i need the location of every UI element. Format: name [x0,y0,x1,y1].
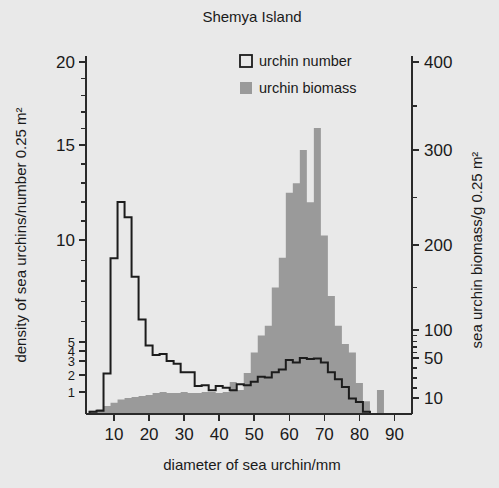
right-tick-label: 50 [424,349,443,368]
right-tick-label: 300 [424,141,452,160]
right-axis-title: sea urchin biomass/g 0.25 m² [468,152,485,349]
right-tick-label: 100 [424,321,452,340]
x-tick-label: 10 [105,425,124,444]
legend-swatch-urchin-biomass-icon [240,82,252,94]
x-tick-label: 40 [210,425,229,444]
x-axis-ticks: 102030405060708090 [105,414,404,444]
left-tick-label: 20 [56,53,75,72]
right-tick-label: 200 [424,236,452,255]
legend-swatch-urchin-number-icon [240,55,252,67]
x-tick-label: 60 [280,425,299,444]
x-tick-label: 30 [175,425,194,444]
left-axis-title: density of sea urchins/number 0.25 m² [12,107,29,362]
chart-title: Shemya Island [202,8,301,25]
left-tick-label: 2 [68,368,75,383]
x-tick-label: 80 [350,425,369,444]
x-tick-label: 90 [385,425,404,444]
urchin-histogram-chart: Shemya Island 102030405060708090 1234510… [0,0,499,488]
left-tick-label: 10 [56,231,75,250]
x-tick-label: 20 [140,425,159,444]
x-tick-label: 50 [245,425,264,444]
right-tick-label: 10 [424,389,443,408]
chart-figure: Shemya Island 102030405060708090 1234510… [0,0,499,488]
legend-label-urchin-biomass: urchin biomass [259,80,357,96]
left-tick-label: 15 [56,136,75,155]
left-tick-label: 5 [68,335,75,350]
legend-label-urchin-number: urchin number [259,53,352,69]
right-tick-label: 400 [424,53,452,72]
x-tick-label: 70 [315,425,334,444]
left-tick-label: 1 [68,385,75,400]
x-axis-title: diameter of sea urchin/mm [163,456,341,473]
